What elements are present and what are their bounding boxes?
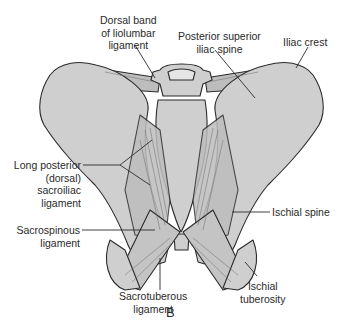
label-ischial-spine: Ischial spine [272,206,330,219]
label-dorsal-band-iliolumbar: Dorsal band of liolumbar ligament [100,14,157,52]
label-posterior-superior-iliac-spine: Posterior superior iliac spine [178,30,261,55]
label-ischial-tuberosity: Ischial tuberosity [240,280,286,305]
label-long-posterior-sacroiliac: Long posterior (dorsal) sacroiliac ligam… [4,159,81,209]
leader-iliac-crest [296,47,308,68]
pelvis-ligament-diagram: Dorsal band of liolumbar ligament Poster… [0,0,363,326]
label-iliac-crest: Iliac crest [283,36,327,49]
label-sacrotuberous: Sacrotuberous ligament [119,290,187,315]
label-sacrospinous: Sacrospinous ligament [4,224,80,249]
panel-letter: B [166,305,175,320]
